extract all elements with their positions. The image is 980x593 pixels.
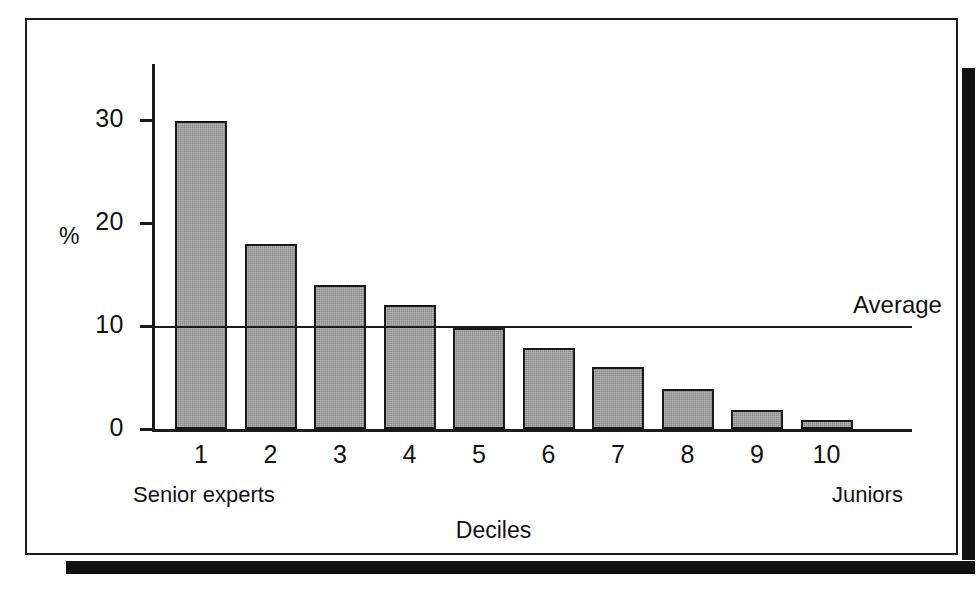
figure-page: 3020100 % Average 12345678910 Senior exp… bbox=[0, 0, 980, 593]
average-reference-line bbox=[140, 326, 912, 328]
x-tick-label-7: 7 bbox=[588, 440, 648, 469]
bar-decile-8 bbox=[662, 389, 714, 429]
bar-decile-5 bbox=[453, 328, 505, 429]
x-tick-label-1: 1 bbox=[171, 440, 231, 469]
bar-decile-7 bbox=[592, 367, 644, 429]
plot-area: 3020100 % Average 12345678910 Senior exp… bbox=[27, 20, 956, 553]
x-axis-line bbox=[152, 429, 912, 432]
bar-decile-4 bbox=[384, 305, 436, 429]
figure-frame: 3020100 % Average 12345678910 Senior exp… bbox=[25, 18, 958, 555]
x-tick-label-2: 2 bbox=[241, 440, 301, 469]
bar-decile-2 bbox=[245, 244, 297, 429]
x-tick-label-3: 3 bbox=[310, 440, 370, 469]
bar-decile-3 bbox=[314, 285, 366, 429]
average-line-label: Average bbox=[853, 291, 942, 319]
x-axis-right-end-label: Juniors bbox=[832, 482, 903, 508]
x-tick-label-6: 6 bbox=[519, 440, 579, 469]
bar-decile-1 bbox=[175, 121, 227, 429]
x-axis-title: Deciles bbox=[27, 517, 960, 544]
frame-shadow-bottom bbox=[66, 561, 975, 574]
x-tick-label-8: 8 bbox=[658, 440, 718, 469]
frame-shadow-right bbox=[962, 68, 975, 560]
x-tick-label-9: 9 bbox=[727, 440, 787, 469]
x-tick-label-5: 5 bbox=[449, 440, 509, 469]
bar-decile-10 bbox=[801, 420, 853, 429]
x-axis-left-end-label: Senior experts bbox=[133, 482, 275, 508]
bar-decile-6 bbox=[523, 348, 575, 429]
x-tick-label-4: 4 bbox=[380, 440, 440, 469]
bar-group bbox=[27, 20, 956, 553]
bar-decile-9 bbox=[731, 410, 783, 429]
x-tick-label-10: 10 bbox=[797, 440, 857, 469]
